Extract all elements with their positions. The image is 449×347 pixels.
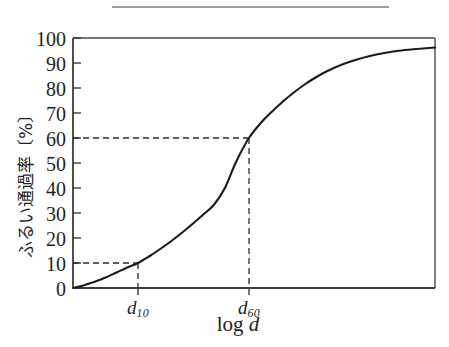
y-tick-label-20: 20 [22,229,66,249]
distribution-curve [73,48,435,289]
y-tick-label-70: 70 [22,104,66,124]
y-tick-label-50: 50 [22,154,66,174]
y-tick-label-100: 100 [22,29,66,49]
y-tick-label-60: 60 [22,129,66,149]
plot-frame [73,38,435,288]
x-tick-d10-base: d [127,297,137,318]
y-tick-label-30: 30 [22,204,66,224]
y-tick-label-0: 0 [22,279,66,299]
x-axis-ticks [138,288,249,295]
sieve-passing-curve-chart [0,0,449,347]
figure-root: ふるい通過率〔%〕 100 90 80 70 60 50 40 30 20 10… [0,0,449,347]
x-axis-title-variable: d [249,312,260,336]
y-tick-label-90: 90 [22,54,66,74]
x-axis-title: log d [148,314,328,335]
d60-guide-lines [73,138,249,288]
y-tick-label-80: 80 [22,79,66,99]
x-axis-title-prefix: log [217,312,249,336]
y-tick-label-40: 40 [22,179,66,199]
y-axis-ticks [73,38,81,288]
y-tick-label-10: 10 [22,254,66,274]
